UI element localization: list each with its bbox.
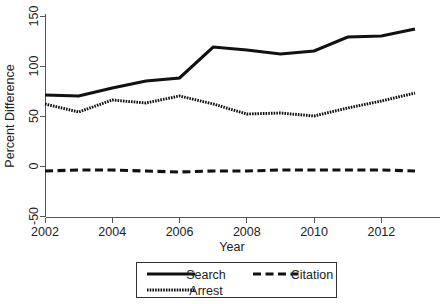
x-tick-label: 2012 [367, 225, 395, 239]
x-tick-label: 2002 [31, 225, 59, 239]
x-tick-label: 2004 [98, 225, 126, 239]
y-tick-label: 50 [27, 109, 41, 123]
legend-label-arrest: Arrest [189, 284, 223, 298]
series-line-search [45, 29, 415, 96]
x-axis-title: Year [219, 240, 244, 254]
series-line-citation [45, 170, 415, 172]
x-tick-label: 2008 [233, 225, 261, 239]
data-series-group [45, 29, 415, 172]
legend-label-search: Search [186, 268, 226, 282]
y-axis-title: Percent Difference [3, 64, 17, 167]
series-line-arrest [45, 93, 415, 116]
axes [46, 14, 441, 218]
line-chart: -50050100150 200220042006200820102012 Pe… [0, 0, 446, 304]
y-axis-ticks: -50050100150 [27, 6, 46, 226]
y-tick-label: 100 [27, 56, 41, 77]
chart-legend: SearchCitationArrest [137, 263, 337, 298]
y-tick-label: 0 [27, 162, 41, 169]
legend-label-citation: Citation [291, 268, 333, 282]
x-tick-label: 2010 [300, 225, 328, 239]
y-tick-label: 150 [27, 6, 41, 27]
y-tick-label: -50 [27, 207, 41, 225]
x-tick-label: 2006 [166, 225, 194, 239]
chart-figure: -50050100150 200220042006200820102012 Pe… [0, 0, 446, 304]
x-axis-ticks: 200220042006200820102012 [31, 218, 395, 240]
